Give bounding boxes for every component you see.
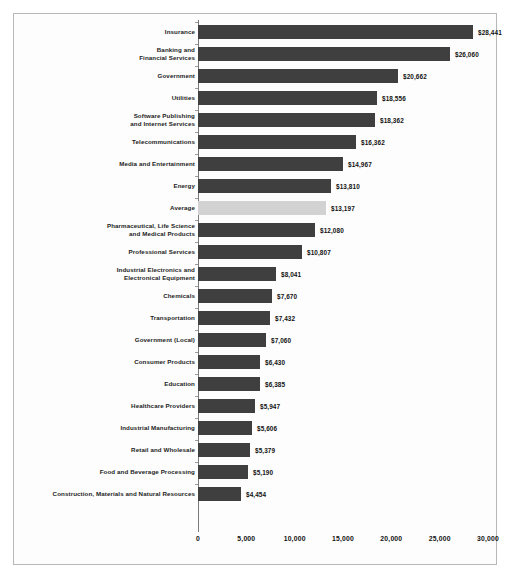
bar-value-label: $4,454 — [246, 483, 266, 505]
bar-row: Average$13,197 — [14, 197, 498, 219]
bar — [198, 333, 266, 347]
category-label: Software Publishingand Internet Services — [19, 109, 195, 131]
bar-row: Chemicals$7,670 — [14, 285, 498, 307]
category-label: Transportation — [19, 307, 195, 329]
bar-value-label: $13,810 — [336, 175, 360, 197]
bar-row: Banking andFinancial Services$26,060 — [14, 43, 498, 65]
bar — [198, 487, 241, 501]
x-axis-tick-label: 15,000 — [332, 535, 354, 542]
bar — [198, 443, 250, 457]
category-label-line: Education — [164, 380, 195, 388]
category-label-line: Retail and Wholesale — [131, 446, 195, 454]
x-axis-tick-label: 5,000 — [237, 535, 255, 542]
bar-row: Telecommunications$16,362 — [14, 131, 498, 153]
x-axis-tick-label: 0 — [196, 535, 200, 542]
bar-value-label: $7,060 — [271, 329, 291, 351]
bar-value-label: $7,670 — [277, 285, 297, 307]
bar-row: Industrial Manufacturing$5,606 — [14, 417, 498, 439]
category-label-line: Professional Services — [129, 248, 195, 256]
category-label-line: Utilities — [172, 94, 195, 102]
bar — [198, 421, 252, 435]
bar-value-label: $6,430 — [265, 351, 285, 373]
category-label: Education — [19, 373, 195, 395]
bar-row: Healthcare Providers$5,947 — [14, 395, 498, 417]
bar-highlight — [198, 201, 326, 215]
bar — [198, 465, 248, 479]
bar-value-label: $18,362 — [380, 109, 404, 131]
bar-value-label: $20,662 — [403, 65, 427, 87]
category-label: Industrial Manufacturing — [19, 417, 195, 439]
bar-row: Software Publishingand Internet Services… — [14, 109, 498, 131]
bar — [198, 91, 377, 105]
category-label-line: Construction, Materials and Natural Reso… — [53, 490, 195, 498]
category-label: Media and Entertainment — [19, 153, 195, 175]
category-label: Industrial Electronics andElectronical E… — [19, 263, 195, 285]
bar — [198, 355, 260, 369]
bar — [198, 399, 255, 413]
category-label: Average — [19, 197, 195, 219]
category-label: Retail and Wholesale — [19, 439, 195, 461]
category-label-line: and Internet Services — [130, 120, 195, 128]
bar-value-label: $5,606 — [257, 417, 277, 439]
category-label: Utilities — [19, 87, 195, 109]
x-axis-tick-label: 10,000 — [284, 535, 306, 542]
x-axis-tick-label: 30,000 — [477, 535, 499, 542]
category-label-line: Food and Beverage Processing — [100, 468, 195, 476]
category-label-line: Average — [170, 204, 195, 212]
bar-row: Retail and Wholesale$5,379 — [14, 439, 498, 461]
category-label-line: Industrial Manufacturing — [120, 424, 195, 432]
category-label: Pharmaceutical, Life Scienceand Medical … — [19, 219, 195, 241]
category-label-line: Consumer Products — [134, 358, 195, 366]
bar-value-label: $12,080 — [320, 219, 344, 241]
bar — [198, 377, 260, 391]
bar-row: Utilities$18,556 — [14, 87, 498, 109]
bar-value-label: $18,556 — [382, 87, 406, 109]
category-label-line: Telecommunications — [132, 138, 195, 146]
bar-value-label: $5,379 — [255, 439, 275, 461]
category-label: Energy — [19, 175, 195, 197]
bar-value-label: $14,967 — [348, 153, 372, 175]
bar-value-label: $16,362 — [361, 131, 385, 153]
category-label: Banking andFinancial Services — [19, 43, 195, 65]
bar — [198, 179, 331, 193]
bar-value-label: $5,190 — [253, 461, 273, 483]
x-axis-tick-labels: 05,00010,00015,00020,00025,00030,000 — [14, 535, 498, 551]
category-label-line: Banking and — [157, 46, 195, 54]
category-label-line: Government (Local) — [135, 336, 195, 344]
bar-row: Transportation$7,432 — [14, 307, 498, 329]
bar — [198, 113, 375, 127]
bar-value-label: $10,807 — [307, 241, 331, 263]
category-label-line: Insurance — [165, 28, 195, 36]
bar — [198, 289, 272, 303]
category-label: Telecommunications — [19, 131, 195, 153]
category-label: Healthcare Providers — [19, 395, 195, 417]
category-label-line: Healthcare Providers — [131, 402, 195, 410]
bar-row: Media and Entertainment$14,967 — [14, 153, 498, 175]
bar — [198, 223, 315, 237]
category-label: Government (Local) — [19, 329, 195, 351]
category-label: Government — [19, 65, 195, 87]
category-label: Food and Beverage Processing — [19, 461, 195, 483]
category-label-line: Energy — [173, 182, 195, 190]
x-axis-tick-label: 20,000 — [380, 535, 402, 542]
bar — [198, 69, 398, 83]
bar-value-label: $26,060 — [455, 43, 479, 65]
bar-value-label: $13,197 — [331, 197, 355, 219]
bar — [198, 267, 276, 281]
category-label: Consumer Products — [19, 351, 195, 373]
bar — [198, 135, 356, 149]
bar-chart-plot-area: Insurance$28,441Banking andFinancial Ser… — [14, 14, 498, 566]
category-label-line: Financial Services — [139, 54, 195, 62]
category-label-line: Electronical Equipment — [124, 274, 195, 282]
bar — [198, 47, 450, 61]
bar-value-label: $8,041 — [281, 263, 301, 285]
bar-value-label: $7,432 — [275, 307, 295, 329]
bar-row: Food and Beverage Processing$5,190 — [14, 461, 498, 483]
category-label-line: Pharmaceutical, Life Science — [107, 222, 195, 230]
chart-figure: Insurance$28,441Banking andFinancial Ser… — [13, 13, 497, 565]
bar-row: Government$20,662 — [14, 65, 498, 87]
bar-row: Consumer Products$6,430 — [14, 351, 498, 373]
category-label-line: Government — [158, 72, 195, 80]
bar-value-label: $28,441 — [478, 21, 502, 43]
bar-row: Industrial Electronics andElectronical E… — [14, 263, 498, 285]
